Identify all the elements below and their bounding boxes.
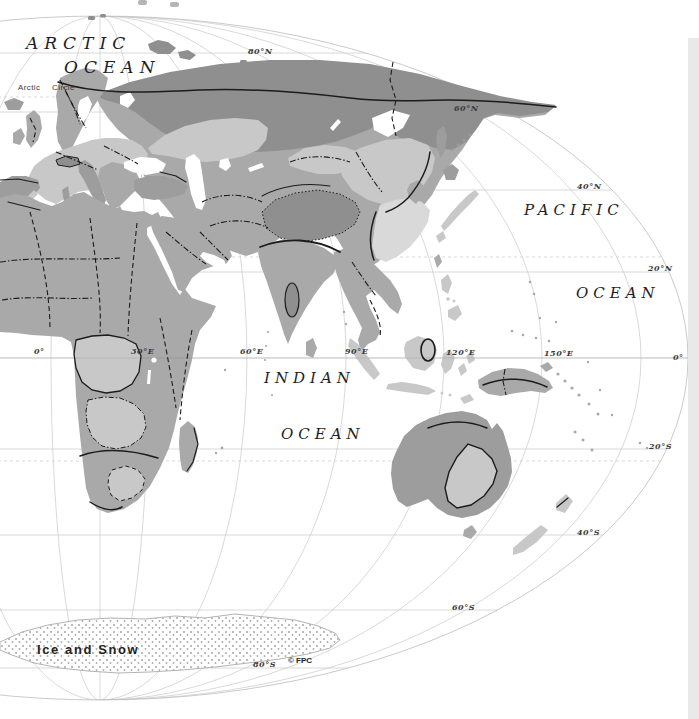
nz-north-island: [556, 494, 573, 513]
world-map: ARCTIC OCEAN Arctic Circle PACIFIC OCEAN…: [0, 0, 699, 719]
ireland: [13, 128, 25, 145]
sulawesi: [441, 349, 455, 374]
great-britain: [26, 110, 42, 148]
tasmania: [463, 525, 477, 539]
map-canvas: [0, 0, 699, 719]
congo-zone: [74, 335, 141, 393]
east-china-xlight: [372, 198, 430, 262]
pacific-islands: [511, 281, 649, 452]
kyushu: [436, 231, 446, 243]
honshu: [441, 190, 479, 231]
indochina: [333, 248, 402, 352]
philippines: [441, 274, 462, 321]
page-edge-strip: [688, 38, 699, 719]
sri-lanka: [306, 338, 317, 358]
antarctica: [0, 614, 340, 673]
timor: [460, 394, 474, 404]
gulf-of-bothnia: [78, 96, 92, 124]
iceland: [4, 98, 24, 110]
java: [386, 382, 436, 395]
western-ghats-zone: [285, 283, 299, 317]
taiwan: [434, 254, 442, 268]
arctic-islands: [88, 0, 259, 67]
madagascar: [179, 421, 198, 473]
nz-south-island: [513, 525, 548, 555]
